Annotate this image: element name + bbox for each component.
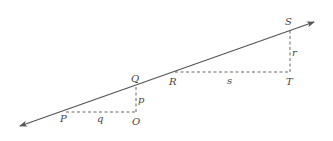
label-p-point: P — [59, 113, 67, 124]
label-r-point: R — [168, 76, 177, 87]
label-s-segment: s — [227, 75, 232, 86]
label-o-point: O — [132, 116, 140, 127]
label-s-point: S — [285, 16, 292, 27]
label-t-point: T — [286, 76, 294, 87]
main-line — [20, 22, 314, 126]
label-q-segment: q — [97, 113, 103, 124]
diagram-canvas: P O Q R T S q p s r — [0, 0, 333, 141]
label-r-segment: r — [292, 47, 298, 58]
label-p-segment: p — [138, 94, 145, 105]
label-q-point: Q — [131, 73, 139, 84]
